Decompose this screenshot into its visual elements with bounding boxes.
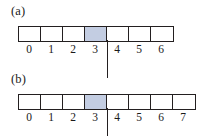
array-cell (85, 27, 107, 41)
panel-a-array (18, 26, 174, 42)
array-cell (107, 27, 129, 41)
array-cell (63, 95, 85, 109)
tick-label: 4 (106, 112, 128, 124)
tick-label: 5 (128, 112, 150, 124)
tick-label: 1 (40, 44, 62, 56)
panel-a-cells (18, 26, 174, 42)
tick-label: 1 (40, 112, 62, 124)
tick-label: 5 (128, 44, 150, 56)
tick-label: 0 (18, 44, 40, 56)
array-cell (41, 27, 63, 41)
array-cell (151, 27, 173, 41)
panel-b-array (18, 94, 196, 110)
array-cell (151, 95, 173, 109)
tick-label: 3 (84, 112, 106, 124)
array-cell (19, 95, 41, 109)
tick-label: 3 (84, 44, 106, 56)
tick-label: 0 (18, 112, 40, 124)
array-cell (85, 95, 107, 109)
array-cell (107, 95, 129, 109)
tick-label: 7 (172, 112, 194, 124)
array-cell (41, 95, 63, 109)
panel-b-label: (b) (11, 73, 26, 86)
panel-a-tick-labels: 0123456 (18, 44, 172, 56)
array-cell (129, 27, 151, 41)
tick-label: 2 (62, 112, 84, 124)
panel-a-label: (a) (11, 5, 25, 18)
panel-b-tick-labels: 01234567 (18, 112, 194, 124)
array-cell (63, 27, 85, 41)
array-cell (173, 95, 195, 109)
tick-label: 6 (150, 112, 172, 124)
array-figure: (a) 0123456 (b) 01234567 (0, 0, 198, 136)
tick-label: 6 (150, 44, 172, 56)
tick-label: 2 (62, 44, 84, 56)
array-cell (19, 27, 41, 41)
array-cell (129, 95, 151, 109)
tick-label: 4 (106, 44, 128, 56)
